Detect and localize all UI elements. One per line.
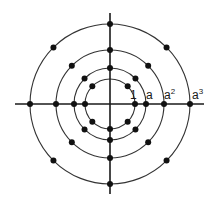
ring-a-dot	[107, 65, 113, 71]
ring-a2-dot	[145, 139, 151, 145]
labels-group: 1 a a2 a3	[130, 87, 204, 102]
ring-a-dot	[82, 76, 88, 82]
label-a-cubed: a3	[192, 87, 204, 102]
ring-a3-dot	[107, 21, 113, 27]
label-a: a	[146, 88, 153, 102]
label-a-squared: a2	[164, 87, 176, 102]
ring-1-dot	[89, 83, 95, 89]
axes-group	[15, 13, 204, 194]
ring-a3-dot	[27, 101, 33, 107]
ring-1-dot	[82, 101, 88, 107]
ring-a-dot	[71, 101, 77, 107]
ring-a2-dot	[69, 139, 75, 145]
ring-a3-dot	[164, 158, 170, 164]
ring-a-dot	[107, 137, 113, 143]
ring-a3-dot	[50, 158, 56, 164]
ring-a2-dot	[107, 155, 113, 161]
ring-a-dot	[132, 76, 138, 82]
ring-a3-dot	[164, 44, 170, 50]
ring-a-dot	[82, 126, 88, 132]
label-1: 1	[130, 88, 137, 102]
ring-1-dot	[89, 119, 95, 125]
ring-a2-dot	[53, 101, 59, 107]
concentric-circles-diagram: 1 a a2 a3	[0, 0, 216, 203]
ring-a2-dot	[69, 63, 75, 69]
ring-a-dot	[132, 126, 138, 132]
ring-a2-dot	[107, 47, 113, 53]
ring-a3-dot	[50, 44, 56, 50]
ring-1-dot	[107, 126, 113, 132]
ring-a3-dot	[107, 181, 113, 187]
ring-1-dot	[125, 119, 131, 125]
ring-a2-dot	[145, 63, 151, 69]
